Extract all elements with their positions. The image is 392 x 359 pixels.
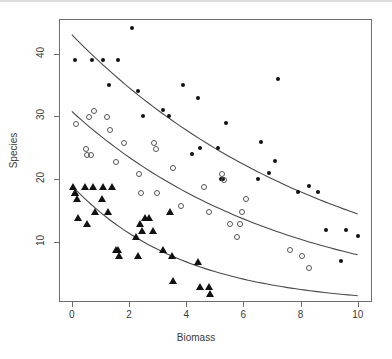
x-axis-label: Biomass: [0, 332, 392, 343]
x-axis-tick-label: 10: [348, 309, 368, 320]
y-axis-tick-label: 30: [35, 105, 46, 125]
y-axis-tick: [54, 54, 59, 55]
x-axis-tick: [301, 302, 302, 307]
x-axis-tick-label: 0: [62, 309, 82, 320]
fit-low-curve: [72, 186, 358, 296]
fit-mid-curve: [72, 111, 358, 254]
x-axis-tick-label: 8: [291, 309, 311, 320]
y-axis-tick: [54, 116, 59, 117]
x-axis-tick: [72, 302, 73, 307]
y-axis-label: Species: [8, 116, 19, 186]
y-axis-tick-label: 10: [35, 231, 46, 251]
x-axis-tick: [358, 302, 359, 307]
fit-high-curve: [72, 35, 358, 214]
y-axis-tick-label: 40: [35, 42, 46, 62]
x-axis-tick: [243, 302, 244, 307]
y-axis-tick: [54, 242, 59, 243]
y-axis-tick-label: 20: [35, 168, 46, 188]
scatter-plot-figure: 024681010203040 Biomass Species: [0, 0, 392, 359]
fitted-curves: [59, 19, 372, 302]
x-axis-tick: [129, 302, 130, 307]
x-axis-tick-label: 2: [119, 309, 139, 320]
y-axis-tick: [54, 179, 59, 180]
plot-area: [59, 19, 372, 302]
x-axis-tick-label: 6: [233, 309, 253, 320]
x-axis-tick-label: 4: [176, 309, 196, 320]
top-rule-divider: [0, 0, 392, 2]
x-axis-tick: [186, 302, 187, 307]
